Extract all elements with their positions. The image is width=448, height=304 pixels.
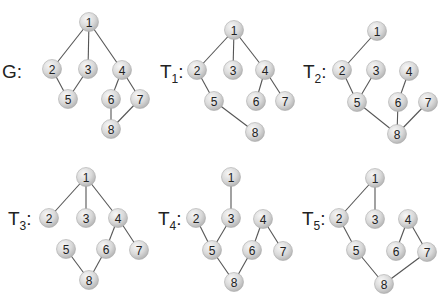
svg-text:3: 3 <box>230 64 237 78</box>
svg-text:7: 7 <box>282 95 289 109</box>
edges <box>196 177 283 282</box>
node-3: 3 <box>224 61 243 80</box>
svg-text:1: 1 <box>374 25 381 39</box>
node-3: 3 <box>77 209 96 228</box>
svg-text:7: 7 <box>280 245 287 259</box>
svg-text:8: 8 <box>394 128 401 142</box>
node-7: 7 <box>130 241 149 260</box>
edges <box>197 30 285 132</box>
svg-text:6: 6 <box>103 243 110 257</box>
node-2: 2 <box>333 61 352 80</box>
node-5: 5 <box>203 241 222 260</box>
svg-text:6: 6 <box>253 95 260 109</box>
node-2: 2 <box>330 209 349 228</box>
node-5: 5 <box>57 240 76 259</box>
svg-text:7: 7 <box>137 93 144 107</box>
node-3: 3 <box>367 61 386 80</box>
graph-g: G:12345678 <box>2 13 150 139</box>
node-1: 1 <box>77 168 96 187</box>
graph-label: G: <box>2 61 22 82</box>
node-8: 8 <box>375 275 394 294</box>
node-8: 8 <box>80 271 99 290</box>
svg-text:4: 4 <box>406 65 413 79</box>
svg-text:4: 4 <box>405 213 412 227</box>
graph-label: T5: <box>302 208 326 233</box>
node-6: 6 <box>102 90 121 109</box>
graph-t3: T3:12345678 <box>8 168 149 290</box>
node-4: 4 <box>113 61 132 80</box>
node-4: 4 <box>109 209 128 228</box>
svg-text:1: 1 <box>228 171 235 185</box>
svg-text:2: 2 <box>339 64 346 78</box>
svg-text:1: 1 <box>231 24 238 38</box>
graph-t2: T2:12345678 <box>303 22 438 144</box>
graph-t4: T4:12345678 <box>158 168 293 292</box>
svg-text:4: 4 <box>115 212 122 226</box>
node-7: 7 <box>131 90 150 109</box>
svg-text:2: 2 <box>49 63 56 77</box>
node-8: 8 <box>246 123 265 142</box>
node-5: 5 <box>347 241 366 260</box>
graph-t5: T5:12345678 <box>302 169 437 294</box>
svg-text:4: 4 <box>262 64 269 78</box>
svg-text:6: 6 <box>108 93 115 107</box>
node-6: 6 <box>97 240 116 259</box>
edges <box>339 178 427 284</box>
node-4: 4 <box>400 62 419 81</box>
node-8: 8 <box>225 273 244 292</box>
svg-text:1: 1 <box>83 171 90 185</box>
node-1: 1 <box>225 21 244 40</box>
svg-text:3: 3 <box>372 213 379 227</box>
svg-text:6: 6 <box>249 244 256 258</box>
svg-text:7: 7 <box>425 96 432 110</box>
graphs-layer: G:12345678T1:12345678T2:12345678T3:12345… <box>2 13 438 294</box>
node-2: 2 <box>188 61 207 80</box>
node-3: 3 <box>366 210 385 229</box>
svg-text:3: 3 <box>83 212 90 226</box>
node-1: 1 <box>222 168 241 187</box>
edges <box>342 31 428 134</box>
node-7: 7 <box>276 92 295 111</box>
graph-label: T2: <box>303 61 327 86</box>
svg-text:2: 2 <box>336 212 343 226</box>
svg-text:5: 5 <box>354 96 361 110</box>
edges <box>49 177 139 280</box>
node-1: 1 <box>366 169 385 188</box>
svg-text:4: 4 <box>119 64 126 78</box>
node-3: 3 <box>79 60 98 79</box>
svg-text:5: 5 <box>63 243 70 257</box>
node-4: 4 <box>399 210 418 229</box>
node-8: 8 <box>388 125 407 144</box>
svg-text:1: 1 <box>86 16 93 30</box>
svg-text:2: 2 <box>193 212 200 226</box>
svg-text:7: 7 <box>136 244 143 258</box>
svg-text:8: 8 <box>108 123 115 137</box>
node-7: 7 <box>418 243 437 262</box>
node-2: 2 <box>43 60 62 79</box>
svg-text:2: 2 <box>194 64 201 78</box>
svg-text:8: 8 <box>231 276 238 290</box>
svg-text:5: 5 <box>211 95 218 109</box>
node-5: 5 <box>205 92 224 111</box>
graph-t1: T1:12345678 <box>160 21 295 142</box>
node-6: 6 <box>389 93 408 112</box>
node-3: 3 <box>222 209 241 228</box>
node-2: 2 <box>187 209 206 228</box>
svg-text:8: 8 <box>252 126 259 140</box>
node-6: 6 <box>247 92 266 111</box>
svg-text:1: 1 <box>372 172 379 186</box>
svg-text:7: 7 <box>424 246 431 260</box>
svg-text:2: 2 <box>46 212 53 226</box>
graph-label: T3: <box>8 208 32 233</box>
node-6: 6 <box>243 241 262 260</box>
svg-text:8: 8 <box>381 278 388 292</box>
node-5: 5 <box>348 93 367 112</box>
svg-text:8: 8 <box>86 274 93 288</box>
svg-text:6: 6 <box>395 96 402 110</box>
node-4: 4 <box>254 210 273 229</box>
svg-text:3: 3 <box>85 63 92 77</box>
svg-text:6: 6 <box>393 245 400 259</box>
node-4: 4 <box>256 61 275 80</box>
node-2: 2 <box>40 209 59 228</box>
svg-text:3: 3 <box>228 212 235 226</box>
